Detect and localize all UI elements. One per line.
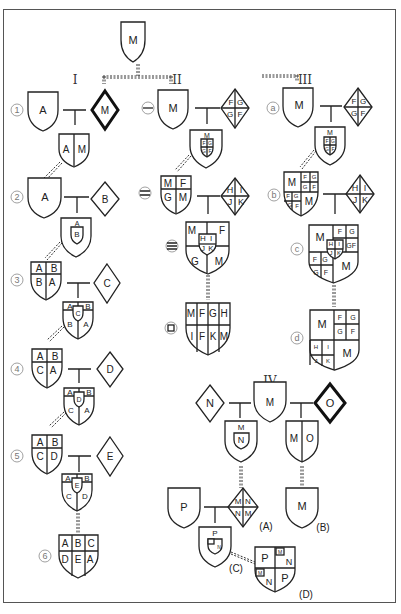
svg-text:M: M [164,178,172,189]
svg-text:F: F [199,331,205,342]
heraldry-diagram: M I II III IV 1 A M A M 2 A B A B [0,0,401,614]
svg-text:B: B [67,320,72,329]
svg-text:F: F [238,110,243,119]
svg-text:H: H [200,234,206,243]
svg-text:B: B [52,351,59,362]
svg-text:P: P [212,529,217,538]
svg-text:M: M [168,102,177,114]
svg-text:F: F [180,178,186,189]
step-I-4: 4 AB CA D AB D CA [11,349,123,425]
svg-text:F: F [229,98,234,107]
svg-text:O: O [326,397,335,409]
svg-text:J: J [353,195,358,205]
svg-text:G: G [331,138,335,144]
svg-text:A: A [75,220,80,227]
svg-text:M: M [341,260,350,272]
svg-text:M: M [187,308,195,319]
svg-text:G: G [351,109,357,118]
svg-text:G: G [208,140,212,146]
svg-text:F: F [351,328,355,335]
svg-text:A: A [36,263,43,274]
svg-text:F: F [312,184,316,190]
svg-text:P: P [180,501,187,513]
step-III-4: d M FG GF HI JK M [291,310,359,370]
svg-text:5: 5 [14,451,19,461]
svg-text:B: B [102,194,109,205]
svg-text:A: A [37,437,44,448]
svg-text:K: K [238,197,244,207]
svg-text:A: A [49,277,56,288]
svg-text:A: A [62,538,69,549]
svg-text:K: K [326,358,330,364]
svg-text:G: G [288,202,293,208]
step-I-1: 1 A M A M [11,91,118,167]
svg-text:M: M [278,549,282,555]
svg-text:M: M [235,497,242,506]
svg-text:M: M [238,423,245,432]
svg-text:C: C [75,310,80,317]
svg-text:2: 2 [14,192,19,202]
svg-text:d: d [294,333,299,343]
svg-text:M: M [294,99,303,111]
svg-text:K: K [208,244,214,253]
svg-text:F: F [352,242,356,249]
svg-text:M: M [245,509,252,518]
svg-text:N: N [286,557,293,567]
svg-text:G: G [294,193,299,199]
svg-text:E: E [107,451,114,462]
svg-text:A: A [63,144,70,155]
svg-text:I: I [210,234,212,243]
svg-text:P: P [281,572,288,584]
svg-text:C: C [68,406,74,415]
svg-text:N: N [238,435,245,445]
svg-text:H: H [329,241,333,247]
section-label-I: I [73,73,78,87]
svg-text:H: H [227,185,234,195]
svg-text:G: G [337,328,342,335]
svg-text:M: M [288,177,296,188]
svg-text:H: H [314,344,318,350]
svg-text:G: G [303,184,308,190]
svg-text:F: F [303,174,307,180]
svg-text:D: D [82,492,88,501]
svg-text:B: B [36,277,43,288]
svg-text:(B): (B) [316,522,329,533]
svg-text:K: K [210,331,217,342]
step-I-5: 5 AB CD E AB E CD [11,435,123,511]
svg-text:G: G [325,146,329,152]
svg-text:B: B [51,263,58,274]
svg-text:F: F [352,97,357,106]
svg-text:E: E [75,482,80,489]
svg-text:M: M [258,570,262,576]
svg-text:M: M [297,500,306,512]
svg-text:A: A [67,388,73,397]
svg-text:N: N [266,577,273,587]
svg-text:F: F [295,203,299,209]
step-II-4: MF GH IF KM [165,303,230,355]
svg-text:C: C [87,538,94,549]
svg-text:B: B [52,437,59,448]
svg-text:K: K [337,250,341,256]
svg-text:D: D [76,396,81,403]
section-label-II: II [172,73,182,87]
svg-text:M: M [128,34,137,46]
svg-text:M: M [188,225,196,236]
svg-text:A: A [83,320,89,329]
svg-text:B: B [75,538,82,549]
svg-text:O: O [306,433,314,444]
svg-text:N: N [217,544,221,550]
svg-text:A: A [67,302,73,311]
svg-text:N: N [245,497,251,506]
step-III-1: a M FG GF M FG GF [267,88,372,165]
step-III-3: c M FG GF HI JK FG GF M [291,225,358,283]
svg-text:A: A [39,104,47,116]
svg-text:F: F [202,140,205,146]
svg-text:D: D [106,364,113,375]
step-I-3: 3 AB BA C AB C BA [11,262,120,339]
svg-text:F: F [338,228,342,235]
section-label-III: III [298,73,312,87]
svg-text:(A): (A) [259,521,272,532]
svg-text:H: H [220,308,227,319]
svg-text:F: F [208,148,211,154]
svg-text:H: H [352,183,359,193]
